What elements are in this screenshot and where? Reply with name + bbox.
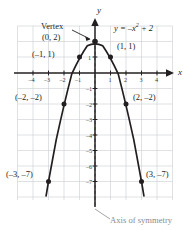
point-label-2-neg2: (2, –2) — [133, 93, 156, 102]
parabola-figure: –4 –3 –2 –1 1 2 3 4 1 –1 –2 –3 –4 –5 –6 … — [0, 0, 193, 231]
equation-tail: + 2 — [139, 23, 153, 33]
x-tick-label: 3 — [140, 77, 143, 83]
vertex-leader-arrow — [72, 30, 91, 41]
data-point — [62, 102, 67, 107]
y-tick-label: 1 — [88, 55, 91, 61]
x-axis-label: x — [178, 68, 182, 77]
y-axis-label: y — [97, 6, 101, 15]
data-point — [46, 179, 51, 184]
x-axis — [14, 69, 174, 76]
point-label-3-neg7: (3, –7) — [146, 170, 169, 179]
data-point — [77, 55, 82, 60]
equation-main: y = –x — [114, 23, 136, 33]
y-tick-label: –1 — [86, 86, 92, 92]
y-axis — [91, 18, 98, 207]
data-point — [139, 179, 144, 184]
y-tick-label: –6 — [86, 164, 92, 170]
symmetry-leader-line — [95, 209, 110, 219]
point-label-neg3-neg7: (–3, –7) — [6, 170, 33, 179]
y-tick-label: –2 — [86, 102, 92, 108]
y-tick-label: –4 — [86, 133, 92, 139]
equation-label: y = –x2 + 2 — [114, 24, 153, 33]
x-tick-label: –3 — [44, 77, 50, 83]
point-label-neg2-neg2: (–2, –2) — [15, 93, 42, 102]
x-tick-label: –4 — [29, 77, 35, 83]
axis-of-symmetry-label: Axis of symmetry — [110, 216, 172, 225]
y-tick-label: –3 — [86, 117, 92, 123]
point-label-1-1: (1, 1) — [117, 42, 135, 51]
data-point — [124, 102, 129, 107]
vertex-coord-label: (0, 2) — [42, 33, 60, 42]
data-point — [108, 55, 113, 60]
y-tick-label: –7 — [86, 179, 92, 185]
y-tick-label: –5 — [86, 148, 92, 154]
vertex-word-label: Vertex — [41, 22, 63, 31]
graph-canvas — [0, 0, 193, 231]
x-tick-label: –1 — [75, 77, 81, 83]
vertex-point — [92, 39, 98, 45]
x-tick-label: 4 — [155, 77, 158, 83]
x-tick-label: –2 — [60, 77, 66, 83]
point-label-neg1-1: (–1, 1) — [32, 50, 55, 59]
x-tick-label: 2 — [124, 77, 127, 83]
x-tick-label: 1 — [109, 77, 112, 83]
